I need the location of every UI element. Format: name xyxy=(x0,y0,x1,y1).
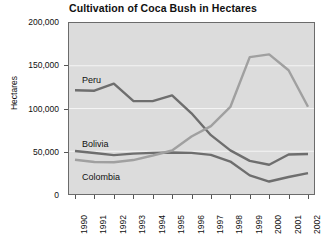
x-axis-tick-label: 1993 xyxy=(137,215,147,234)
x-axis-tick-mark xyxy=(250,195,251,199)
y-axis-tick-label: 150,000 xyxy=(28,60,59,70)
y-axis-tick-label: 50,000 xyxy=(33,147,59,157)
x-axis-tick-mark xyxy=(289,195,290,199)
y-axis-tick-label: 200,000 xyxy=(28,17,59,27)
x-axis-tick-mark xyxy=(192,195,193,199)
x-axis-tick-mark xyxy=(172,195,173,199)
x-axis-tick-mark xyxy=(153,195,154,199)
x-axis-tick-label: 1997 xyxy=(215,215,225,234)
x-axis-tick-label: 1990 xyxy=(79,215,89,234)
x-axis-tick-label: 2001 xyxy=(293,215,303,234)
x-axis-tick-label: 2002 xyxy=(312,215,322,234)
x-axis-tick-mark xyxy=(230,195,231,199)
chart-container: Cultivation of Coca Bush in Hectares Hec… xyxy=(0,0,326,242)
x-axis-tick-label: 1995 xyxy=(176,215,186,234)
x-axis-tick-mark xyxy=(94,195,95,199)
x-axis-tick-mark xyxy=(114,195,115,199)
y-axis-tick-label: 0 xyxy=(54,190,59,200)
y-axis-tick-labels: 050,000100,000150,000200,000 xyxy=(0,0,64,242)
plot-svg xyxy=(69,23,314,194)
x-axis-tick-label: 1994 xyxy=(157,215,167,234)
x-axis-tick-label: 1998 xyxy=(234,215,244,234)
x-axis-tick-label: 1996 xyxy=(196,215,206,234)
series-label-peru: Peru xyxy=(82,75,101,85)
x-axis-tick-mark xyxy=(269,195,270,199)
x-axis-tick-labels: 1990199119921993199419951996199719981999… xyxy=(68,200,315,242)
x-axis-tick-mark xyxy=(75,195,76,199)
x-axis-tick-mark xyxy=(211,195,212,199)
x-axis-tick-label: 1999 xyxy=(254,215,264,234)
plot-area xyxy=(68,22,315,195)
series-label-colombia: Colombia xyxy=(82,172,120,182)
x-axis-tick-label: 1992 xyxy=(118,215,128,234)
x-axis-tick-mark xyxy=(133,195,134,199)
x-axis-tick-mark xyxy=(308,195,309,199)
series-label-bolivia: Bolivia xyxy=(82,139,109,149)
x-axis-tick-label: 2000 xyxy=(273,215,283,234)
y-axis-tick-label: 100,000 xyxy=(28,104,59,114)
x-axis-tick-label: 1991 xyxy=(98,215,108,234)
